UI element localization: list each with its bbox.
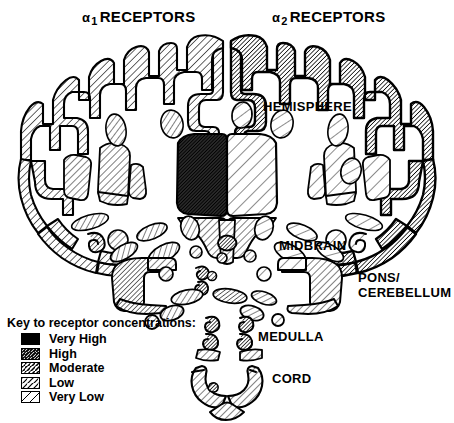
legend-label: High bbox=[49, 347, 77, 361]
pontine-dot-b bbox=[190, 246, 202, 258]
legend-label: Moderate bbox=[49, 361, 105, 375]
alpha1-subscript: 1 bbox=[90, 15, 99, 27]
medulla-band-left bbox=[196, 349, 220, 360]
nucleus-small-l2 bbox=[230, 101, 253, 130]
label-cord: CORD bbox=[272, 371, 311, 386]
pontine-nucleus-a bbox=[170, 287, 204, 307]
label-midbrain: MIDBRAIN bbox=[279, 238, 346, 253]
alpha2-word: RECEPTORS bbox=[290, 8, 386, 25]
pontine-dot-d bbox=[244, 250, 256, 262]
label-hemisphere: HEMISPHERE bbox=[263, 99, 352, 114]
hippocampus-right bbox=[349, 233, 366, 252]
pontine-dot-e bbox=[257, 267, 271, 281]
nucleus-small-r3 bbox=[326, 113, 350, 147]
pontine-nucleus-c bbox=[250, 288, 278, 307]
spinal-cord bbox=[192, 366, 263, 420]
legend-swatch bbox=[21, 362, 40, 374]
label-pons-line1: PONS/ bbox=[358, 270, 451, 285]
legend-item: Moderate bbox=[7, 361, 167, 376]
nucleus-amygdala-right bbox=[344, 210, 384, 234]
thalamus-left bbox=[177, 134, 227, 216]
legend-item: High bbox=[7, 347, 167, 362]
legend-swatch bbox=[21, 348, 40, 360]
midbrain-nucleus-left-outer bbox=[135, 220, 170, 245]
legend-item: Very Low bbox=[7, 390, 167, 405]
nucleus-small-l1 bbox=[158, 108, 185, 140]
medulla-raphe-left bbox=[203, 317, 219, 350]
legend-label: Very High bbox=[49, 332, 107, 346]
legend-label: Low bbox=[49, 376, 74, 390]
label-medulla: MEDULLA bbox=[258, 329, 324, 344]
pontine-dot-c bbox=[217, 253, 227, 263]
label-pons-cerebellum: PONS/ CEREBELLUM bbox=[358, 270, 451, 300]
legend-rows: Very HighHighModerateLowVery Low bbox=[7, 332, 167, 405]
medulla-dot-right bbox=[272, 314, 284, 326]
nucleus-right-pallidum bbox=[308, 164, 325, 199]
nucleus-left-pallidum bbox=[129, 164, 146, 199]
pons-cerebellum-right bbox=[278, 258, 342, 314]
legend-swatch bbox=[21, 391, 40, 403]
alpha1-word: RECEPTORS bbox=[100, 8, 196, 25]
alpha2-subscript: 2 bbox=[280, 15, 289, 27]
nucleus-small-l3 bbox=[104, 113, 128, 147]
title-alpha2-receptors: α2RECEPTORS bbox=[272, 8, 386, 27]
legend-item: Low bbox=[7, 376, 167, 391]
legend-title: Key to receptor concentrations: bbox=[7, 316, 167, 330]
pontine-dot-f bbox=[208, 272, 217, 281]
legend-label: Very Low bbox=[49, 390, 104, 404]
legend-key: Key to receptor concentrations: Very Hig… bbox=[7, 316, 167, 405]
legend-item: Very High bbox=[7, 332, 167, 347]
figure-canvas: α1RECEPTORS α2RECEPTORS HEMISPHERE MIDBR… bbox=[0, 0, 454, 423]
pontine-nucleus-b bbox=[212, 287, 248, 306]
thalamus-right bbox=[227, 134, 277, 216]
legend-swatch bbox=[21, 377, 40, 389]
label-pons-line2: CEREBELLUM bbox=[358, 285, 451, 300]
nucleus-amygdala-left bbox=[70, 210, 110, 234]
medulla-band-right bbox=[240, 349, 262, 360]
cord-central-canal bbox=[208, 383, 218, 392]
hippocampus-left bbox=[88, 233, 105, 252]
pontine-dot-a bbox=[159, 267, 173, 281]
medulla-raphe-right bbox=[237, 317, 253, 350]
legend-swatch bbox=[21, 333, 40, 345]
title-alpha1-receptors: α1RECEPTORS bbox=[82, 8, 196, 27]
midbrain-raphe bbox=[218, 236, 237, 251]
nucleus-right-caudate bbox=[363, 155, 390, 200]
nucleus-left-caudate bbox=[64, 155, 91, 200]
